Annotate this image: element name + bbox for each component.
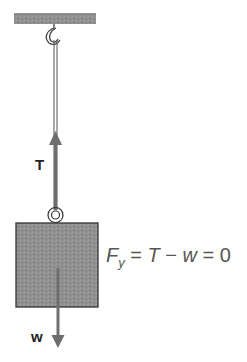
equilibrium-equation: Fy = T − w = 0 xyxy=(106,244,231,270)
hook-icon xyxy=(46,24,60,44)
weight-label: w xyxy=(31,328,43,345)
free-body-diagram xyxy=(0,0,247,362)
tension-symbol: T xyxy=(148,244,160,266)
weight-symbol: w xyxy=(183,244,197,266)
force-symbol: F xyxy=(106,244,118,266)
minus-sign: − xyxy=(160,244,183,266)
equals-sign: = xyxy=(125,244,148,266)
tension-label: T xyxy=(35,156,44,173)
tension-arrow xyxy=(49,131,62,210)
zero-value: 0 xyxy=(220,244,231,266)
equals-sign-2: = xyxy=(197,244,220,266)
ceiling-bar xyxy=(14,13,96,24)
